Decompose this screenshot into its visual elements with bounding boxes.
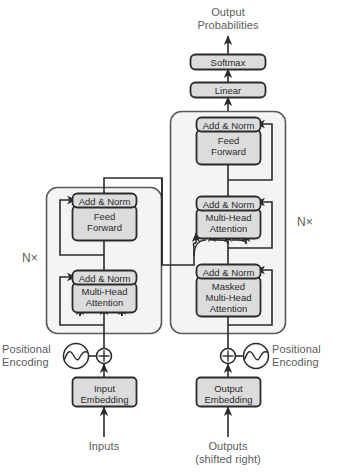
decoder-repeat-label: N× <box>297 215 313 229</box>
pos-enc-left-line1: Positional <box>2 343 60 356</box>
encoder-add-norm-top-box[interactable] <box>73 194 137 208</box>
sine-wave-circle-right <box>244 344 269 369</box>
diagram-canvas <box>0 0 337 476</box>
output-probabilities-line1: Output <box>178 6 278 19</box>
encoder-repeat-label: N× <box>22 251 38 265</box>
decoder-multihead-attention-box[interactable] <box>197 209 261 239</box>
output-embedding-box[interactable] <box>197 378 261 407</box>
transformer-architecture-diagram: Output Probabilities Softmax Linear Add … <box>0 0 337 476</box>
input-embedding-box[interactable] <box>73 378 137 407</box>
outputs-line2: (shifted right) <box>178 453 278 466</box>
encoder-feed-forward-box[interactable] <box>73 206 137 241</box>
sine-wave-circle-left <box>64 344 89 369</box>
pos-enc-left-line2: Encoding <box>2 356 60 369</box>
softmax-box[interactable] <box>191 55 266 70</box>
decoder-masked-attention-box[interactable] <box>197 277 261 317</box>
pos-enc-right-line2: Encoding <box>272 356 334 369</box>
linear-box[interactable] <box>191 83 266 98</box>
inputs-label: Inputs <box>64 440 144 453</box>
output-probabilities-line2: Probabilities <box>178 19 278 32</box>
decoder-add-norm-bottom-box[interactable] <box>197 265 261 279</box>
encoder-add-norm-bottom-box[interactable] <box>73 271 137 285</box>
decoder-add-norm-mid-box[interactable] <box>197 197 261 211</box>
decoder-feed-forward-box[interactable] <box>197 130 261 165</box>
pos-enc-right-line1: Positional <box>272 343 334 356</box>
encoder-multihead-attention-box[interactable] <box>73 283 137 313</box>
outputs-label: Outputs (shifted right) <box>178 440 278 465</box>
positional-encoding-label-right: Positional Encoding <box>272 343 334 368</box>
output-probabilities-label: Output Probabilities <box>178 6 278 31</box>
decoder-add-norm-top-box[interactable] <box>197 118 261 132</box>
positional-encoding-label-left: Positional Encoding <box>2 343 60 368</box>
outputs-line1: Outputs <box>178 440 278 453</box>
